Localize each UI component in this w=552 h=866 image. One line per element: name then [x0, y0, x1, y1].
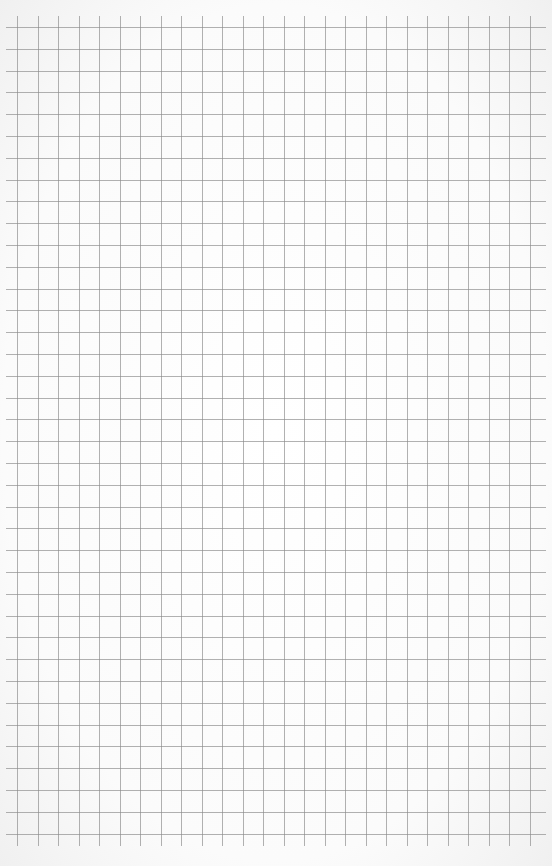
graph-paper-sheet — [0, 0, 552, 866]
grid-lines — [0, 0, 552, 866]
